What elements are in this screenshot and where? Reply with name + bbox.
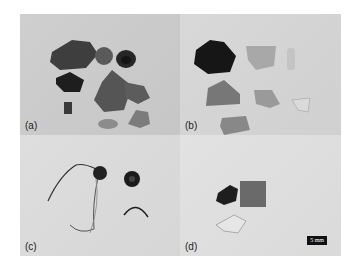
panel-a: (a): [20, 14, 180, 135]
panel-b: (b): [180, 14, 341, 135]
panel-d: (d) 5 mm: [180, 135, 341, 256]
panel-label: (c): [25, 241, 37, 252]
panel-label: (d): [185, 241, 197, 252]
wires-buttons-image: [20, 135, 180, 256]
panel-label: (a): [25, 120, 37, 131]
stones-image: [20, 14, 180, 135]
scale-bar: 5 mm: [307, 236, 327, 245]
panel-c: (c): [20, 135, 180, 256]
panel-label: (b): [185, 120, 197, 131]
fragments-image: [180, 14, 341, 135]
